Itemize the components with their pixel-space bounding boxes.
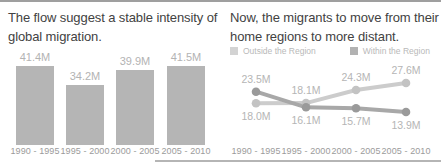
point-value-label: 15.7M: [341, 115, 370, 127]
line-chart-plot: 18.0M18.1M24.3M27.6M23.5M16.1M15.7M13.9M: [228, 60, 441, 134]
point-mark[interactable]: [352, 86, 361, 95]
point-value-label: 13.9M: [391, 119, 420, 131]
x-axis-label: 2005 - 2010: [156, 146, 216, 156]
point-value-label: 24.3M: [341, 71, 370, 83]
legend-item-outside-region[interactable]: Outside the Region: [230, 46, 316, 56]
bar-chart-panel: The flow suggest a stable intensity of g…: [0, 0, 221, 162]
bar-value-label: 41.5M: [155, 51, 217, 63]
bar-mark[interactable]: [16, 66, 54, 145]
bar-mark[interactable]: [116, 70, 154, 145]
line-chart-legend: Outside the Region Within the Region: [230, 46, 430, 56]
line-chart-panel: Now, the migrants to move from their hom…: [222, 0, 441, 162]
legend-label-within-region: Within the Region: [363, 46, 430, 56]
point-mark[interactable]: [252, 99, 261, 108]
point-mark[interactable]: [352, 104, 361, 113]
bar-mark[interactable]: [66, 85, 104, 145]
point-mark[interactable]: [302, 103, 311, 112]
point-value-label: 27.6M: [391, 64, 420, 76]
point-mark[interactable]: [252, 87, 261, 96]
bar-chart-plot: 41.4M34.2M39.9M41.5M: [0, 0, 221, 162]
point-value-label: 23.5M: [241, 73, 270, 85]
point-value-label: 18.0M: [241, 110, 270, 122]
point-mark[interactable]: [402, 79, 411, 88]
outside-region-swatch-icon: [230, 47, 238, 55]
bar-chart-x-axis: 1990 - 19951995 - 20002000 - 20052005 - …: [0, 146, 221, 158]
bar-value-label: 34.2M: [54, 70, 116, 82]
bar-mark[interactable]: [167, 66, 205, 145]
x-axis-label: 2005 - 2010: [376, 146, 436, 156]
bar-value-label: 41.4M: [4, 51, 66, 63]
within-region-swatch-icon: [350, 47, 358, 55]
point-mark[interactable]: [402, 108, 411, 117]
point-value-label: 16.1M: [291, 114, 320, 126]
point-value-label: 18.1M: [291, 84, 320, 96]
migration-dashboard: The flow suggest a stable intensity of g…: [0, 0, 441, 162]
bottom-border: [155, 160, 441, 162]
line-chart-title: Now, the migrants to move from their hom…: [230, 8, 440, 46]
legend-label-outside-region: Outside the Region: [243, 46, 316, 56]
line-chart-x-axis: 1990 - 19951995 - 20002000 - 20052005 - …: [222, 146, 441, 158]
legend-item-within-region[interactable]: Within the Region: [350, 46, 430, 56]
